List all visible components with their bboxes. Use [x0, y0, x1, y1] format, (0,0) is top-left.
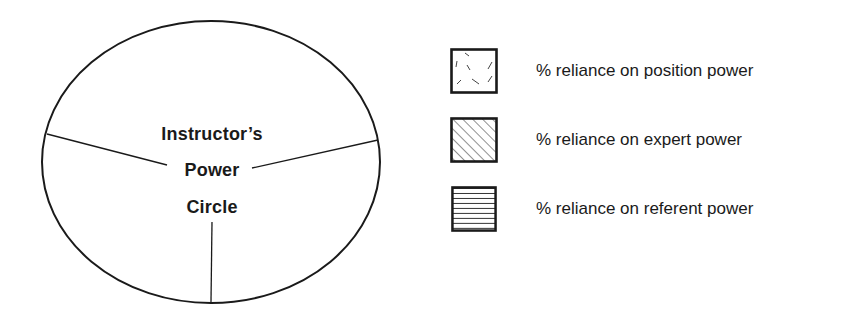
legend-label-expert-power: % reliance on expert power	[536, 130, 742, 150]
legend-item-position-power: % reliance on position power	[450, 48, 840, 98]
horizontal-lines-pattern-icon	[450, 186, 498, 232]
circle-title-line-3: Circle	[132, 197, 292, 218]
scattered-dash-pattern-icon	[450, 48, 498, 94]
circle-title-line-1: Instructor’s	[132, 124, 292, 145]
diagonal-hatch-pattern-icon	[450, 117, 498, 163]
legend-item-referent-power: % reliance on referent power	[450, 186, 840, 236]
legend-label-referent-power: % reliance on referent power	[536, 199, 753, 219]
divider-bottom	[211, 222, 212, 302]
legend-label-position-power: % reliance on position power	[536, 61, 753, 81]
circle-title-line-2: Power	[132, 160, 292, 181]
legend-item-expert-power: % reliance on expert power	[450, 117, 840, 167]
